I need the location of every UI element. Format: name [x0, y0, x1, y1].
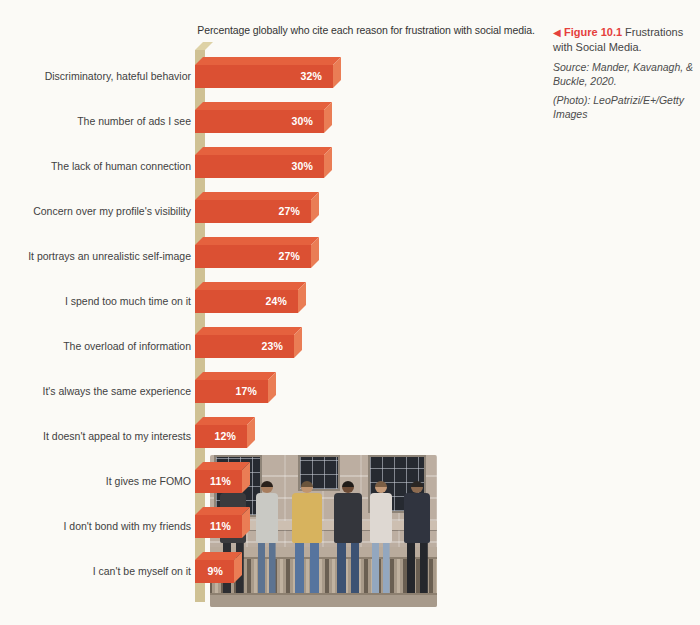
bar-value: 9% [207, 560, 234, 583]
bar-category-label: It's always the same experience [43, 380, 192, 403]
bar-value: 24% [265, 290, 298, 313]
figure-source: Source: Mander, Kavanagh, & Buckle, 2020… [553, 60, 700, 88]
bar-front-face: 17% [195, 380, 268, 403]
bar-value: 11% [210, 515, 242, 538]
bar-category-label: Discriminatory, hateful behavior [45, 65, 191, 88]
bar-front-face: 30% [195, 110, 324, 133]
bar-row: I can't be myself on it9% [0, 552, 700, 583]
bar-top-face [195, 462, 250, 470]
bar-value: 12% [214, 425, 247, 448]
bar: 30% [195, 147, 332, 178]
bar-front-face: 27% [195, 200, 311, 223]
bar: 12% [195, 417, 255, 448]
bar-top-face [195, 552, 242, 560]
bar-front-face: 32% [195, 65, 333, 88]
bar-top-face [195, 507, 250, 515]
bar-top-face [195, 417, 255, 425]
bar: 11% [195, 507, 250, 538]
bar-category-label: The number of ads I see [77, 110, 191, 133]
bar-row: I don't bond with my friends11% [0, 507, 700, 538]
bar-top-face [195, 57, 341, 65]
figure-label: Figure 10.1 [564, 26, 622, 38]
bar-top-face [195, 237, 319, 245]
bar-row: The lack of human connection30% [0, 147, 700, 178]
photo-credit: (Photo): LeoPatrizi/E+/Getty Images [553, 93, 700, 121]
bar-row: I spend too much time on it24% [0, 282, 700, 313]
bar-value: 17% [235, 380, 268, 403]
bar-front-face: 27% [195, 245, 311, 268]
bar-row: The overload of information23% [0, 327, 700, 358]
bar-category-label: It gives me FOMO [106, 470, 191, 493]
bar-row: It doesn't appeal to my interests12% [0, 417, 700, 448]
bar-row: It gives me FOMO11% [0, 462, 700, 493]
bar-front-face: 23% [195, 335, 294, 358]
bar-row: It portrays an unrealistic self-image27% [0, 237, 700, 268]
textbook-figure-page: Percentage globally who cite each reason… [0, 0, 700, 625]
bar-top-face [195, 372, 276, 380]
bar-row: Concern over my profile's visibility27% [0, 192, 700, 223]
bar-top-face [195, 102, 332, 110]
bar-top-face [195, 327, 302, 335]
bar-value: 30% [291, 110, 324, 133]
bar: 27% [195, 192, 319, 223]
bar-category-label: It portrays an unrealistic self-image [28, 245, 191, 268]
bar-category-label: I spend too much time on it [65, 290, 191, 313]
figure-arrow-icon: ◀ [553, 27, 561, 38]
bar: 17% [195, 372, 276, 403]
bar-value: 27% [278, 200, 311, 223]
bar-top-face [195, 147, 332, 155]
figure-caption-heading: ◀Figure 10.1Frustrations with Social Med… [553, 25, 700, 55]
bar: 11% [195, 462, 250, 493]
bar-top-face [195, 192, 319, 200]
bar-front-face: 11% [195, 515, 242, 538]
bar-category-label: Concern over my profile's visibility [33, 200, 191, 223]
bar-value: 30% [291, 155, 324, 178]
bar: 9% [195, 552, 242, 583]
bar-front-face: 12% [195, 425, 247, 448]
bar-value: 32% [300, 65, 333, 88]
bar-category-label: The lack of human connection [51, 155, 191, 178]
bar-front-face: 30% [195, 155, 324, 178]
bar-value: 27% [278, 245, 311, 268]
bar-front-face: 24% [195, 290, 298, 313]
bar: 30% [195, 102, 332, 133]
bar: 27% [195, 237, 319, 268]
bar-row: It's always the same experience17% [0, 372, 700, 403]
bar-value: 23% [261, 335, 294, 358]
bar-category-label: The overload of information [63, 335, 191, 358]
bar-category-label: I don't bond with my friends [64, 515, 192, 538]
figure-caption: ◀Figure 10.1Frustrations with Social Med… [553, 25, 700, 121]
bar-front-face: 11% [195, 470, 242, 493]
chart-title: Percentage globally who cite each reason… [188, 24, 544, 36]
bar-front-face: 9% [195, 560, 234, 583]
bar-category-label: I can't be myself on it [93, 560, 191, 583]
bar-value: 11% [210, 470, 242, 493]
bar: 23% [195, 327, 302, 358]
bar: 32% [195, 57, 341, 88]
bar-category-label: It doesn't appeal to my interests [43, 425, 191, 448]
bar: 24% [195, 282, 306, 313]
bar-top-face [195, 282, 306, 290]
